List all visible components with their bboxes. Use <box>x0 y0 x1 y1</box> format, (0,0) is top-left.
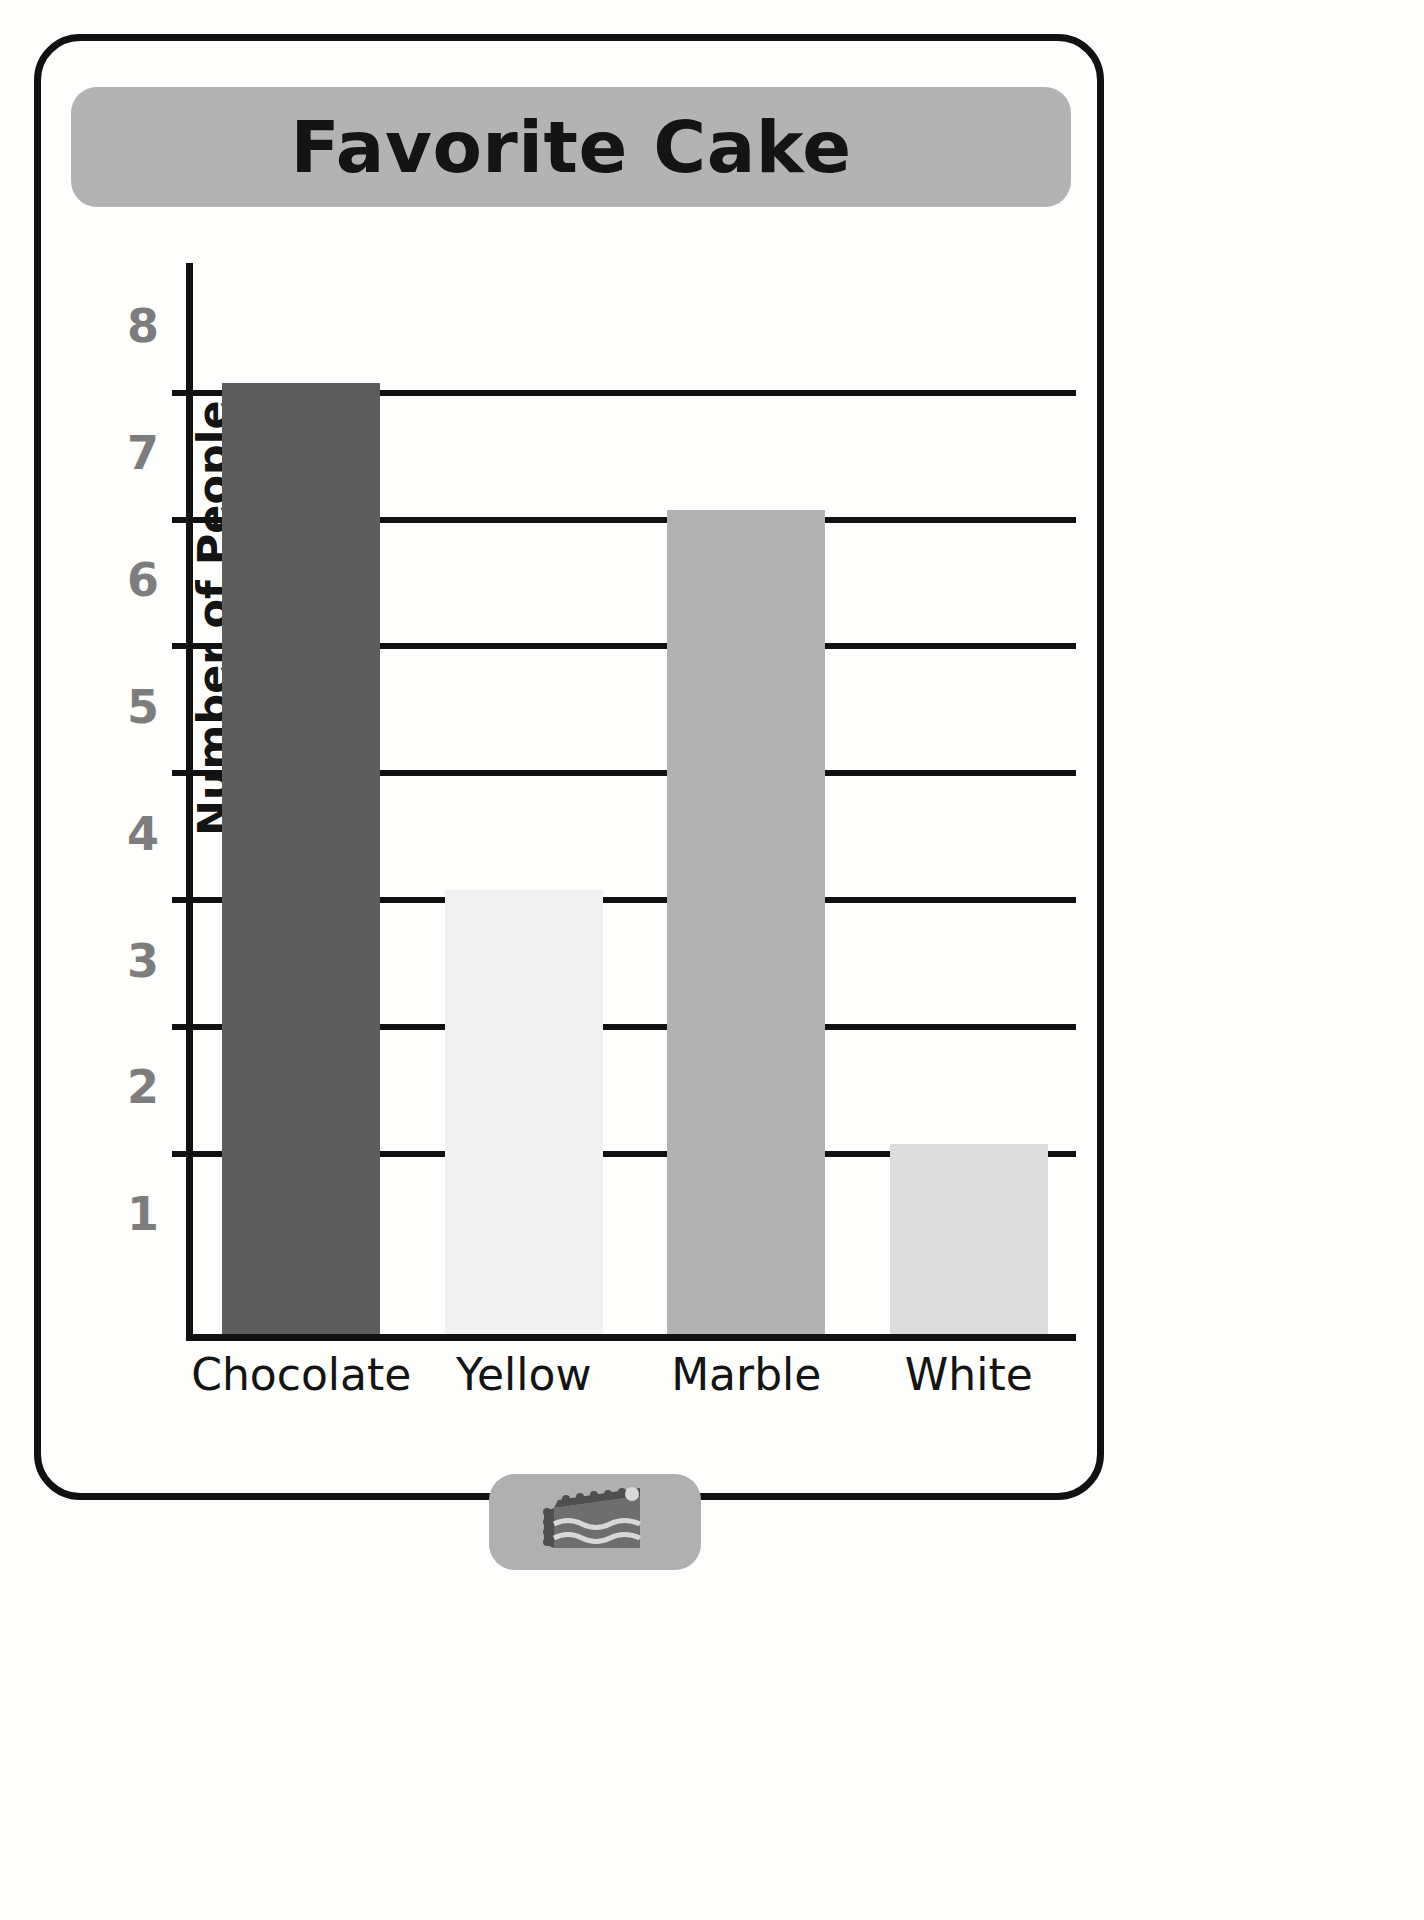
y-axis-tick-label: 1 <box>113 1191 173 1237</box>
bar <box>222 383 380 1334</box>
y-axis-tick-label: 2 <box>113 1064 173 1110</box>
x-axis-line <box>186 1334 1076 1341</box>
bar <box>890 1144 1048 1334</box>
y-axis-tick <box>172 1151 193 1157</box>
y-axis-tick <box>172 770 193 776</box>
chart-plot-area <box>186 263 1076 1341</box>
y-axis-tick-label: 6 <box>113 557 173 603</box>
title-banner: Favorite Cake <box>71 87 1071 207</box>
y-axis-tick <box>172 1024 193 1030</box>
y-axis-tick-label: 5 <box>113 684 173 730</box>
x-axis-category-label: Marble <box>635 1353 858 1397</box>
cake-slice-icon <box>489 1474 701 1570</box>
y-axis-tick <box>172 897 193 903</box>
y-axis-tick <box>172 517 193 523</box>
bar <box>667 510 825 1334</box>
page-title: Favorite Cake <box>290 111 851 183</box>
y-axis-tick-label: 4 <box>113 811 173 857</box>
y-axis-tick-label: 8 <box>113 303 173 349</box>
y-axis-tick-labels: 12345678 <box>101 263 173 1341</box>
y-axis-tick <box>172 390 193 396</box>
x-axis-category-label: Yellow <box>413 1353 636 1397</box>
y-axis-line <box>186 263 193 1341</box>
y-axis-tick-label: 3 <box>113 938 173 984</box>
x-axis-category-label: Chocolate <box>190 1353 413 1397</box>
y-axis-tick-label: 7 <box>113 430 173 476</box>
x-axis-category-label: White <box>858 1353 1081 1397</box>
bar <box>445 890 603 1334</box>
x-axis-category-labels: ChocolateYellowMarbleWhite <box>186 1353 1076 1433</box>
y-axis-tick <box>172 643 193 649</box>
worksheet-card: Favorite Cake Number of People 12345678 … <box>34 34 1104 1500</box>
